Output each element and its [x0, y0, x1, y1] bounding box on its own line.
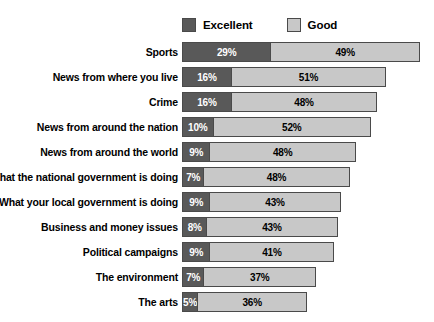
bar-value-label: 9% — [189, 147, 203, 158]
chart-plot-area: Sports29%49%News from where you live16%5… — [0, 42, 434, 317]
category-label: Business and money issues — [41, 217, 178, 237]
stacked-bar: 8%43% — [182, 217, 338, 237]
chart-row: News from around the nation10%52% — [0, 117, 434, 142]
category-label: News from where you live — [53, 67, 178, 87]
bar-value-label: 51% — [299, 72, 318, 83]
category-label: The environment — [96, 267, 178, 287]
bar-segment-excellent: 10% — [182, 117, 213, 137]
bar-value-label: 43% — [265, 197, 284, 208]
legend-swatch-icon — [287, 18, 301, 32]
category-label: News from around the world — [40, 142, 178, 162]
stacked-bar: 16%51% — [182, 67, 386, 87]
bar-value-label: 10% — [188, 122, 207, 133]
bar-segment-good: 43% — [209, 192, 340, 212]
chart-row: What your local government is doing9%43% — [0, 192, 434, 217]
bar-segment-good: 49% — [270, 42, 419, 62]
bar-segment-good: 36% — [197, 292, 307, 312]
bar-value-label: 37% — [250, 272, 269, 283]
category-label: Sports — [146, 42, 178, 62]
bar-segment-good: 51% — [231, 67, 387, 87]
chart-row: The arts5%36% — [0, 292, 434, 317]
legend-entry: Excellent — [182, 18, 253, 32]
chart-row: Political campaigns9%41% — [0, 242, 434, 267]
bar-segment-good: 43% — [206, 217, 337, 237]
category-label: What your local government is doing — [0, 192, 178, 212]
category-label: Crime — [149, 92, 178, 112]
bar-segment-excellent: 16% — [182, 67, 231, 87]
bar-segment-good: 52% — [213, 117, 372, 137]
bar-value-label: 48% — [267, 172, 286, 183]
bar-value-label: 16% — [197, 97, 216, 108]
bar-value-label: 7% — [186, 272, 200, 283]
bar-segment-excellent: 16% — [182, 92, 231, 112]
category-label: Political campaigns — [83, 242, 178, 262]
stacked-bar: 9%48% — [182, 142, 356, 162]
category-label: What the national government is doing — [0, 167, 178, 187]
bar-value-label: 9% — [189, 247, 203, 258]
bar-segment-excellent: 5% — [182, 292, 197, 312]
chart-row: Business and money issues8%43% — [0, 217, 434, 242]
stacked-bar: 7%37% — [182, 267, 316, 287]
bar-value-label: 49% — [335, 47, 354, 58]
bar-value-label: 36% — [242, 297, 261, 308]
bar-segment-good: 41% — [209, 242, 334, 262]
chart-row: News from where you live16%51% — [0, 67, 434, 92]
bar-value-label: 41% — [262, 247, 281, 258]
stacked-bar-chart: ExcellentGood Sports29%49%News from wher… — [0, 0, 434, 322]
chart-row: News from around the world9%48% — [0, 142, 434, 167]
bar-segment-excellent: 29% — [182, 42, 270, 62]
stacked-bar: 29%49% — [182, 42, 420, 62]
bar-segment-good: 37% — [203, 267, 316, 287]
bar-value-label: 8% — [188, 222, 202, 233]
stacked-bar: 9%41% — [182, 242, 334, 262]
category-label: News from around the nation — [37, 117, 178, 137]
bar-segment-excellent: 8% — [182, 217, 206, 237]
chart-legend: ExcellentGood — [182, 14, 371, 36]
bar-value-label: 29% — [217, 47, 236, 58]
bar-segment-excellent: 9% — [182, 192, 209, 212]
bar-segment-good: 48% — [203, 167, 349, 187]
bar-value-label: 9% — [189, 197, 203, 208]
chart-row: Crime16%48% — [0, 92, 434, 117]
bar-segment-good: 48% — [231, 92, 377, 112]
bar-value-label: 48% — [273, 147, 292, 158]
chart-row: Sports29%49% — [0, 42, 434, 67]
bar-segment-excellent: 7% — [182, 167, 203, 187]
stacked-bar: 7%48% — [182, 167, 350, 187]
legend-label: Good — [308, 19, 338, 31]
bar-value-label: 48% — [294, 97, 313, 108]
bar-segment-excellent: 9% — [182, 142, 209, 162]
bar-segment-excellent: 9% — [182, 242, 209, 262]
bar-value-label: 7% — [186, 172, 200, 183]
bar-segment-good: 48% — [209, 142, 355, 162]
stacked-bar: 10%52% — [182, 117, 371, 137]
legend-entry: Good — [287, 18, 338, 32]
bar-value-label: 43% — [262, 222, 281, 233]
chart-row: The environment7%37% — [0, 267, 434, 292]
bar-segment-excellent: 7% — [182, 267, 203, 287]
chart-row: What the national government is doing7%4… — [0, 167, 434, 192]
bar-value-label: 52% — [282, 122, 301, 133]
stacked-bar: 5%36% — [182, 292, 307, 312]
bar-value-label: 5% — [183, 297, 197, 308]
bar-value-label: 16% — [197, 72, 216, 83]
legend-swatch-icon — [182, 18, 196, 32]
legend-label: Excellent — [203, 19, 253, 31]
category-label: The arts — [138, 292, 178, 312]
stacked-bar: 9%43% — [182, 192, 341, 212]
stacked-bar: 16%48% — [182, 92, 377, 112]
